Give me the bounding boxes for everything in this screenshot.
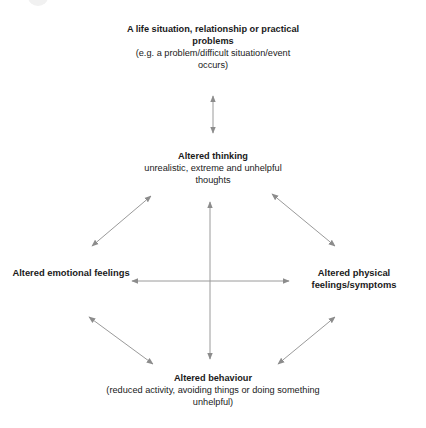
- situation-subtitle: (e.g. a problem/difficult situation/even…: [120, 47, 306, 71]
- thinking-title: Altered thinking: [128, 150, 298, 162]
- arrow-emotional-behaviour: [89, 317, 153, 364]
- thinking-node: Altered thinking unrealistic, extreme an…: [128, 150, 298, 186]
- arrow-thinking-emotional: [92, 196, 151, 246]
- emotional-title: Altered emotional feelings: [10, 267, 132, 279]
- situation-node: A life situation, relationship or practi…: [120, 23, 306, 71]
- behaviour-title: Altered behaviour: [104, 372, 322, 384]
- situation-title: A life situation, relationship or practi…: [120, 23, 306, 47]
- behaviour-subtitle: (reduced activity, avoiding things or do…: [104, 384, 322, 408]
- behaviour-node: Altered behaviour (reduced activity, avo…: [104, 372, 322, 408]
- thinking-subtitle: unrealistic, extreme and unhelpful thoug…: [128, 162, 298, 186]
- physical-node: Altered physical feelings/symptoms: [292, 267, 416, 291]
- emotional-node: Altered emotional feelings: [10, 267, 132, 279]
- physical-title: Altered physical feelings/symptoms: [292, 267, 416, 291]
- arrow-physical-behaviour: [278, 317, 335, 364]
- arrow-thinking-physical: [272, 194, 335, 246]
